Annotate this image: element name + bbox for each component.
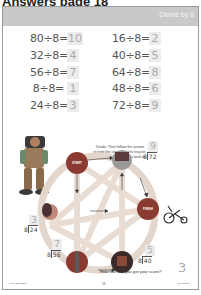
score-answer: 3: [178, 260, 186, 275]
division-problem: 840: [138, 257, 152, 264]
division-answer: 9: [148, 141, 158, 152]
footer-left: KS ANSWERS: [10, 282, 27, 285]
page-number: 18: [102, 282, 105, 286]
finish-label: FINISH: [140, 207, 156, 211]
score-question: How low can you get your score?: [100, 269, 162, 274]
dividend: 24: [28, 225, 39, 233]
division-problem: 872: [143, 153, 157, 160]
start-label: START: [69, 161, 85, 165]
dividend: 56: [51, 250, 62, 258]
footer-right: DIVISION: [178, 282, 189, 285]
division-problem: 824: [24, 226, 38, 233]
dividend: 72: [147, 152, 158, 160]
division-answer: 7: [52, 239, 62, 250]
division-problem: 856: [47, 251, 61, 258]
tricycle-icon: [164, 206, 187, 223]
wheel-diagram: [0, 0, 201, 295]
dividend: 40: [142, 256, 153, 264]
division-answer: 5: [145, 245, 155, 256]
